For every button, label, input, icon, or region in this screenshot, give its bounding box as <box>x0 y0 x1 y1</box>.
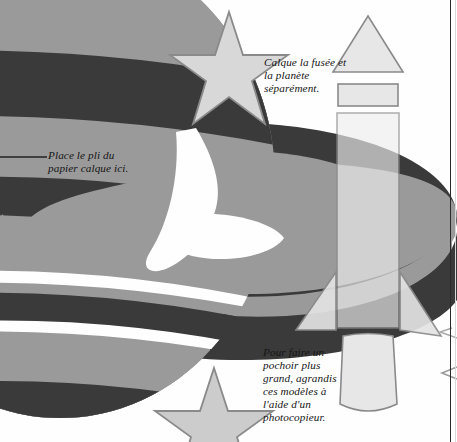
caption-fold-here: Place le pli du papier calque ici. <box>48 149 144 175</box>
caption-trace-separately: Calque la fusée et la planète séparément… <box>264 56 350 95</box>
rocket-body <box>337 113 399 328</box>
caption-enlarge-photocopier: Pour faire un pochoir plus grand, agrand… <box>263 346 351 424</box>
stencil-artwork <box>0 0 457 442</box>
page-border-line-secondary <box>455 0 456 442</box>
stencil-page: Calque la fusée et la planète séparément… <box>0 0 457 442</box>
page-border-line <box>450 0 451 442</box>
